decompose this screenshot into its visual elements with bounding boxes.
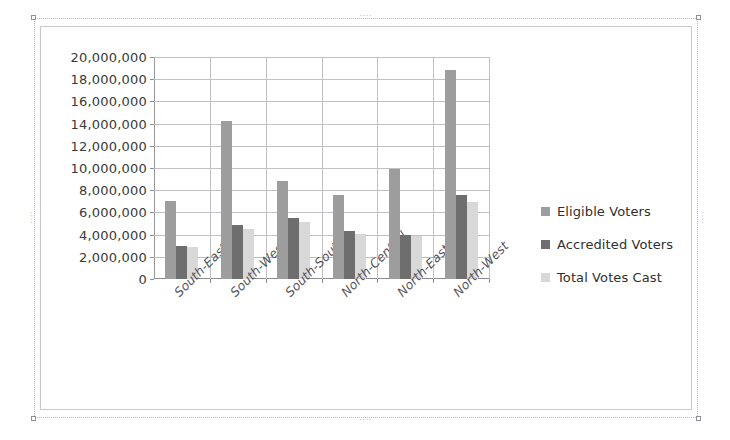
selection-dots-right: ···· [698,212,705,225]
legend-swatch-icon [541,240,550,249]
chart-legend[interactable]: Eligible VotersAccredited VotersTotal Vo… [541,195,686,294]
value-axis-label: 20,000,000 [71,50,147,65]
bar-group [266,57,322,279]
legend-label: Eligible Voters [557,204,651,219]
value-axis-tick [150,279,154,280]
value-axis-label: 18,000,000 [71,72,147,87]
resize-handle-top-left[interactable] [31,15,36,20]
bar[interactable] [165,201,176,279]
category-axis-tick [266,279,267,283]
bar-group [433,57,489,279]
category-divider [489,57,490,279]
legend-swatch-icon [541,273,550,282]
bar[interactable] [333,195,344,279]
bar-group [154,57,210,279]
plot-area: 02,000,0004,000,0006,000,0008,000,00010,… [154,57,489,279]
resize-handle-bottom-left[interactable] [31,416,36,421]
legend-label: Total Votes Cast [557,270,662,285]
category-axis-tick [433,279,434,283]
chart-plot-container[interactable]: 02,000,0004,000,0006,000,0008,000,00010,… [40,26,692,410]
bar-group [210,57,266,279]
category-axis-tick [489,279,490,283]
resize-handle-top-right[interactable] [696,15,701,20]
legend-item[interactable]: Accredited Voters [541,228,686,261]
bar-group [322,57,378,279]
value-axis-label: 0 [139,272,147,287]
legend-item[interactable]: Eligible Voters [541,195,686,228]
bar-group [377,57,433,279]
category-axis-tick [210,279,211,283]
value-axis-label: 8,000,000 [79,183,147,198]
bar[interactable] [389,169,400,279]
chart-object[interactable]: 02,000,0004,000,0006,000,0008,000,00010,… [34,18,698,418]
bar[interactable] [288,218,299,279]
value-axis-label: 6,000,000 [79,205,147,220]
bar[interactable] [445,70,456,279]
value-axis-label: 4,000,000 [79,227,147,242]
value-axis-label: 2,000,000 [79,249,147,264]
bar[interactable] [232,225,243,279]
legend-swatch-icon [541,207,550,216]
value-axis-label: 14,000,000 [71,116,147,131]
legend-label: Accredited Voters [557,237,673,252]
bar[interactable] [277,181,288,279]
resize-handle-bottom-right[interactable] [696,416,701,421]
value-axis-label: 10,000,000 [71,161,147,176]
value-axis-label: 12,000,000 [71,138,147,153]
bar[interactable] [221,121,232,279]
selection-dots-left: ···· [27,212,34,225]
category-axis-tick [377,279,378,283]
selection-dots-bottom: ···· [360,417,373,424]
selection-dots-top: ···· [360,13,373,20]
category-axis-tick [322,279,323,283]
legend-item[interactable]: Total Votes Cast [541,261,686,294]
bar[interactable] [456,195,467,279]
value-axis-label: 16,000,000 [71,94,147,109]
